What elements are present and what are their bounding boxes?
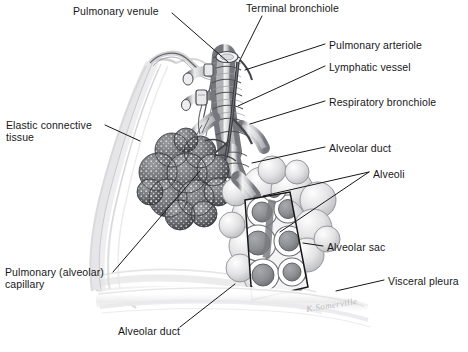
- label-alveolar-sac: Alveolar sac: [327, 241, 385, 253]
- label-alveolar-duct-right: Alveolar duct: [329, 142, 391, 154]
- leader-visceral-pleura: [336, 280, 384, 291]
- label-alveolar-duct-bottom: Alveolar duct: [118, 325, 180, 337]
- leader-pulmonary-arteriole: [245, 44, 325, 70]
- label-visceral-pleura: Visceral pleura: [388, 275, 459, 287]
- label-pulmonary-venule: Pulmonary venule: [73, 5, 159, 17]
- leader-lymphatic-vessel: [238, 66, 325, 106]
- label-pulmonary-arteriole: Pulmonary arteriole: [329, 39, 422, 51]
- label-respiratory-bronchiole: Respiratory bronchiole: [329, 96, 436, 108]
- label-pulmonary-alveolar-capillary: Pulmonary (alveolar) capillary: [5, 266, 104, 290]
- label-terminal-bronchiole: Terminal bronchiole: [246, 2, 339, 14]
- label-lymphatic-vessel: Lymphatic vessel: [329, 61, 411, 73]
- anatomical-figure: Pulmonary venule Terminal bronchiole Pul…: [0, 0, 468, 352]
- leader-terminal-bronchiole: [239, 16, 262, 62]
- leader-respiratory-bronchiole: [250, 101, 325, 124]
- label-elastic-connective-tissue: Elastic connective tissue: [6, 119, 92, 143]
- label-alveoli: Alveoli: [373, 168, 405, 180]
